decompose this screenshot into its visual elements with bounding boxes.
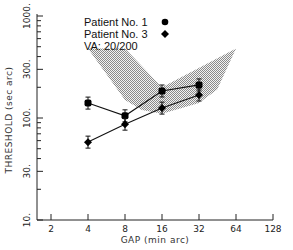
legend-label-patient-3: Patient No. 3 (84, 28, 148, 40)
x-tick-label: 128 (264, 224, 281, 234)
y-tick-label: 30. (22, 164, 32, 178)
x-tick-label: 64 (230, 224, 242, 234)
y-tick-label: 1000. (22, 3, 32, 29)
legend-note-va: VA: 20/200 (84, 40, 138, 52)
legend-label-patient-1: Patient No. 1 (84, 16, 148, 28)
y-tick-label: 100. (22, 108, 32, 128)
y-tick-label: 300. (22, 59, 32, 79)
circle-marker-icon (162, 19, 169, 26)
threshold-vs-gap-chart: 10.30.100.300.1000.248163264128 Patient … (0, 0, 293, 250)
circle-marker-icon (85, 100, 92, 107)
y-tick-label: 10. (22, 213, 32, 227)
circle-marker-icon (159, 87, 166, 94)
legend: Patient No. 1 Patient No. 3 VA: 20/200 (84, 16, 169, 52)
x-tick-label: 16 (156, 224, 168, 234)
x-tick-label: 4 (85, 224, 91, 234)
y-axis-title: THRESHOLD (sec arc) (4, 66, 14, 174)
circle-marker-icon (196, 81, 203, 88)
diamond-marker-icon (84, 138, 92, 146)
diamond-marker-icon (161, 30, 169, 38)
x-tick-label: 2 (48, 224, 54, 234)
x-tick-label: 8 (122, 224, 128, 234)
x-tick-label: 32 (193, 224, 204, 234)
diamond-marker-icon (121, 120, 129, 128)
x-axis-title: GAP (min arc) (121, 235, 190, 245)
axes: 10.30.100.300.1000.248163264128 (22, 3, 282, 234)
